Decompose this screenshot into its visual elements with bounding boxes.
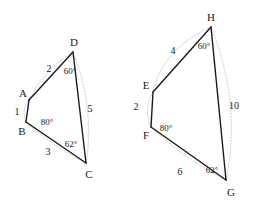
side-label-bc: 3 — [46, 147, 51, 157]
geometry-figure: A B C D 2 1 3 5 60° 80° 62° E F G H 4 2 … — [0, 0, 253, 219]
side-label-gh: 10 — [229, 101, 239, 111]
figure-canvas — [0, 0, 253, 219]
angle-label-h: 60° — [198, 42, 211, 51]
vertex-label-h: H — [207, 12, 215, 23]
vertex-label-f: F — [143, 130, 149, 141]
side-label-ab: 1 — [15, 107, 20, 117]
vertex-label-b: B — [18, 126, 25, 137]
side-label-he: 4 — [171, 46, 176, 56]
segment-ef — [151, 92, 153, 127]
angle-label-f: 80° — [160, 124, 173, 133]
angle-label-b: 80° — [41, 118, 54, 127]
angle-label-g: 62° — [206, 166, 219, 175]
angle-label-c: 62° — [65, 140, 78, 149]
vertex-label-e: E — [143, 80, 150, 91]
angle-label-d: 60° — [64, 67, 77, 76]
segment-he — [153, 27, 211, 92]
vertex-label-c: C — [85, 169, 92, 180]
side-label-ef: 2 — [134, 102, 139, 112]
vertex-label-a: A — [19, 88, 27, 99]
vertex-label-g: G — [227, 187, 235, 198]
efgh-outline — [151, 27, 226, 180]
segment-gh — [211, 27, 226, 180]
side-label-fg: 6 — [178, 167, 183, 177]
segment-da — [29, 52, 73, 100]
side-label-cd: 5 — [88, 104, 93, 114]
side-label-da: 2 — [47, 64, 52, 74]
vertex-label-d: D — [70, 37, 78, 48]
